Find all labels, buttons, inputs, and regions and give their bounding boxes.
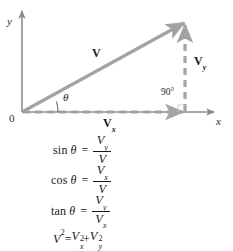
pythagorean-term-1-symbol: V — [71, 229, 79, 243]
theta-label: θ — [63, 92, 68, 103]
tangent-numerator: Vy — [92, 194, 109, 210]
tangent-function-name: tan — [51, 204, 66, 219]
pythagorean-term-1: V2x — [71, 229, 83, 249]
pythagorean-term-1-subscript: x — [80, 243, 84, 251]
tangent-equation: tan θ = Vy Vx — [51, 194, 110, 229]
sine-theta: θ — [71, 143, 77, 158]
x-component-label: Vx — [103, 117, 116, 132]
sine-numerator-subscript: y — [104, 143, 108, 152]
right-angle-label: 90° — [161, 88, 174, 98]
cosine-numerator-subscript: x — [104, 173, 108, 182]
tangent-fraction: Vy Vx — [92, 194, 110, 229]
resultant-vector-label: V — [92, 47, 101, 59]
cosine-numerator: Vx — [94, 164, 111, 180]
cosine-theta: θ — [71, 173, 77, 188]
tangent-numerator-subscript: y — [103, 203, 107, 212]
pythagorean-equals: = — [65, 232, 72, 247]
sine-equals: = — [82, 143, 89, 158]
sine-equation: sin θ = Vy V — [53, 134, 111, 166]
resultant-vector-arrow — [22, 23, 184, 112]
pythagorean-term-2: V2y — [90, 229, 102, 249]
sine-fraction: Vy V — [93, 134, 111, 166]
cosine-equals: = — [82, 173, 89, 188]
resultant-vector-symbol: V — [92, 46, 101, 60]
pythagorean-term-2-subscript: y — [98, 243, 102, 251]
y-axis-label: y — [7, 16, 12, 27]
y-component-label: Vy — [194, 55, 206, 70]
tangent-denominator-symbol: V — [95, 212, 103, 226]
pythagorean-lhs: V2 — [53, 231, 65, 247]
cosine-function-name: cos — [51, 173, 68, 188]
pythagorean-term-2-symbol: V — [90, 229, 98, 243]
x-component-symbol: V — [103, 116, 112, 130]
pythagorean-term-1-indices: 2x — [80, 235, 84, 250]
origin-label: 0 — [9, 113, 15, 124]
tangent-numerator-symbol: V — [95, 193, 103, 207]
theta-arc — [57, 102, 59, 113]
tangent-theta: θ — [69, 204, 75, 219]
y-component-symbol: V — [194, 54, 203, 68]
pythagorean-equation: V2 = V2x + V2y — [53, 229, 101, 249]
tangent-denominator: Vx — [92, 213, 109, 229]
pythagorean-plus: + — [83, 232, 90, 247]
vector-diagram: y x 0 V Vx Vy θ 90° — [0, 0, 233, 132]
sine-function-name: sin — [53, 143, 68, 158]
pythagorean-lhs-exponent: 2 — [61, 228, 65, 237]
tangent-equals: = — [80, 204, 87, 219]
tangent-denominator-subscript: x — [103, 221, 107, 230]
equation-list: sin θ = Vy V cos θ = Vx V tan θ = — [0, 132, 233, 247]
pythagorean-term-2-indices: 2y — [98, 235, 102, 250]
x-axis-label: x — [216, 116, 221, 127]
y-component-subscript: y — [203, 63, 207, 72]
cosine-fraction: Vx V — [93, 164, 111, 196]
sine-numerator: Vy — [94, 134, 111, 150]
pythagorean-lhs-symbol: V — [53, 232, 61, 246]
cosine-equation: cos θ = Vx V — [51, 164, 111, 196]
